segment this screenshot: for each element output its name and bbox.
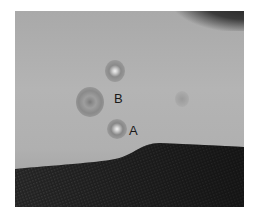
lesion-faint — [175, 91, 189, 107]
clinical-photo: B A — [15, 11, 244, 207]
dark-fabric — [15, 11, 244, 207]
lesion-upper — [105, 60, 125, 82]
label-b: B — [114, 92, 123, 105]
lesion-a — [107, 119, 127, 139]
label-a: A — [129, 124, 138, 137]
lesion-b — [76, 87, 104, 117]
